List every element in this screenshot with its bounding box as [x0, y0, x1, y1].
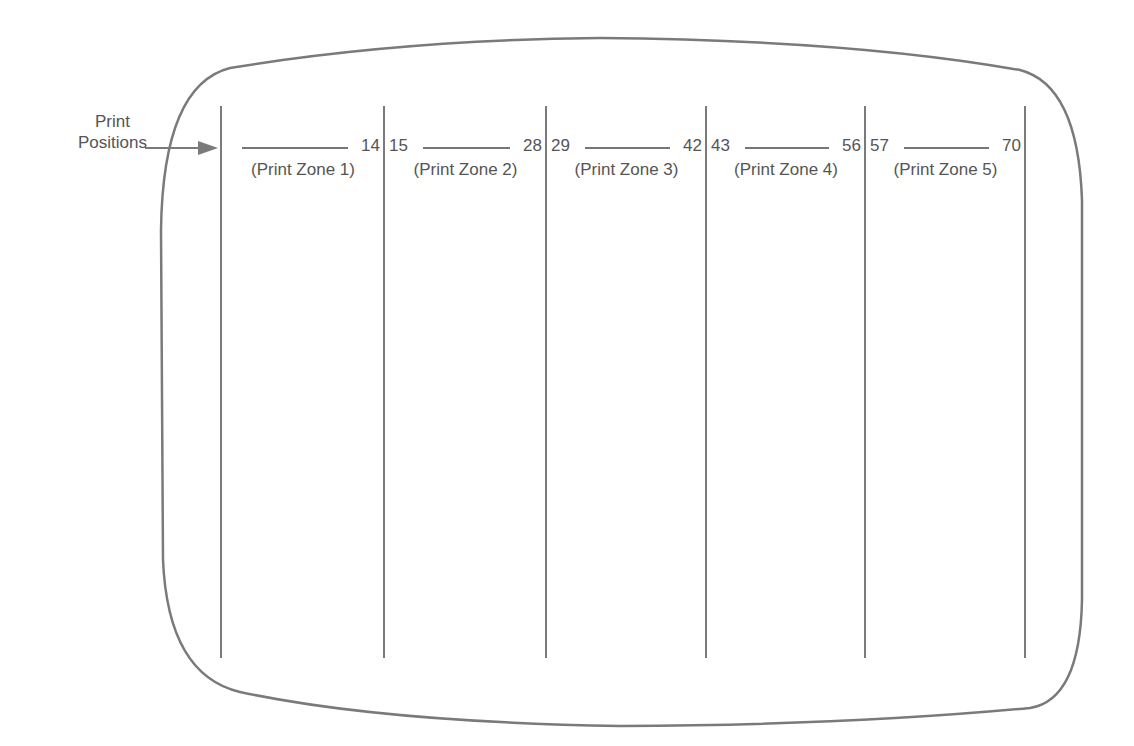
- print-positions-label: Print Positions: [78, 111, 147, 153]
- zone-end-position: 56: [842, 136, 861, 156]
- print-zone-4: 43 56 (Print Zone 4): [707, 136, 865, 184]
- zone-start-position: 43: [711, 136, 730, 156]
- range-dash: [745, 147, 829, 149]
- range-dash: [585, 147, 670, 149]
- zone-name: (Print Zone 1): [222, 160, 384, 180]
- zone-end-position: 14: [361, 136, 380, 156]
- zone-end-position: 70: [1002, 136, 1021, 156]
- screen-outline: [0, 0, 1134, 746]
- print-zone-3: 29 42 (Print Zone 3): [547, 136, 706, 184]
- arrow-right-icon: [145, 141, 218, 155]
- label-line-1: Print: [78, 111, 147, 132]
- zone-name: (Print Zone 4): [707, 160, 865, 180]
- zone-start-position: 57: [870, 136, 889, 156]
- print-zone-2: 15 28 (Print Zone 2): [385, 136, 546, 184]
- zone-end-position: 42: [683, 136, 702, 156]
- zone-name: (Print Zone 5): [866, 160, 1025, 180]
- label-line-2: Positions: [78, 132, 147, 153]
- zone-end-position: 28: [523, 136, 542, 156]
- zone-start-position: 29: [551, 136, 570, 156]
- print-zone-1: 14 (Print Zone 1): [222, 136, 384, 184]
- print-zone-5: 57 70 (Print Zone 5): [866, 136, 1025, 184]
- range-dash: [423, 147, 510, 149]
- range-dash: [904, 147, 989, 149]
- zone-start-position: 15: [389, 136, 408, 156]
- range-dash: [242, 147, 348, 149]
- zone-name: (Print Zone 2): [385, 160, 546, 180]
- zone-name: (Print Zone 3): [547, 160, 706, 180]
- zone-dividers: [221, 106, 1025, 658]
